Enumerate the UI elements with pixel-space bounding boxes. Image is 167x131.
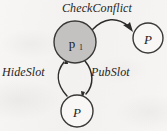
node-p-bottom[interactable]: P: [61, 95, 93, 127]
node-p1-label: p: [69, 36, 76, 51]
edge-label-pubslot: PubSlot: [91, 65, 130, 80]
edge-label-hideslot: HideSlot: [2, 65, 45, 80]
node-p1-subscript: 1: [79, 43, 83, 52]
edge-hideslot: [58, 57, 68, 96]
node-p-bottom-label: P: [72, 105, 81, 120]
node-p1[interactable]: p 1: [54, 21, 96, 63]
edge-checkconflict: [92, 20, 133, 32]
diagram-canvas: p 1 P P CheckConflict HideSlot PubSlot: [0, 0, 167, 131]
edge-label-checkconflict: CheckConflict: [62, 1, 132, 16]
node-p-right-label: P: [143, 32, 152, 47]
node-p-right[interactable]: P: [133, 23, 163, 53]
edge-checkconflict-path: [92, 20, 128, 30]
edge-hideslot-path: [58, 62, 67, 96]
